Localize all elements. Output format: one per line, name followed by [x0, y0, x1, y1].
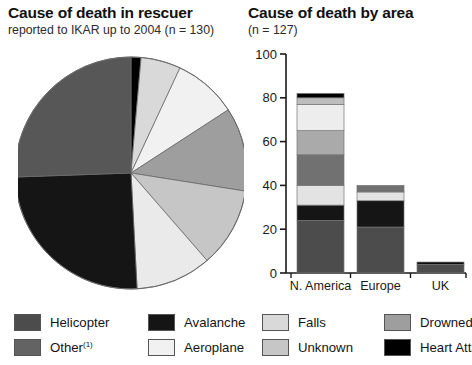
bar-segment-drowned: [297, 155, 344, 186]
bar-segment-other: [297, 98, 344, 105]
y-axis-tick-label: 0: [270, 266, 277, 281]
legend-swatch: [384, 339, 411, 356]
legend-swatch: [14, 314, 41, 331]
bar-chart-subtitle: (n = 127): [248, 23, 298, 37]
legend-label: Heart Attack: [420, 341, 472, 354]
bar-segment-falls: [357, 192, 404, 201]
x-axis-category-label: N. America: [290, 279, 352, 293]
legend-label: Avalanche: [184, 316, 245, 329]
legend-label: Helicopter: [50, 316, 109, 329]
legend-swatch: [262, 339, 289, 356]
y-axis-tick-label: 100: [255, 47, 277, 62]
legend-swatch: [262, 314, 289, 331]
bar-segment-heart-attack: [297, 93, 344, 97]
legend-item-aeroplane: Aeroplane: [148, 337, 244, 358]
bar-segment-helicopter: [417, 264, 464, 273]
bar-chart-category-labels: N. AmericaEuropeexcluding UKUK: [290, 279, 450, 296]
legend-swatch: [384, 314, 411, 331]
legend-swatch: [14, 339, 41, 356]
legend-footnote-marker: (1): [83, 340, 93, 349]
pie-slice-group: [18, 57, 244, 289]
bar-chart-svg: 020406080100 N. AmericaEuropeexcluding U…: [244, 46, 472, 296]
legend-item-other: Other(1): [14, 337, 93, 358]
pie-chart-subtitle: reported to IKAR up to 2004 (n = 130): [8, 23, 214, 37]
pie-chart-title: Cause of death in rescuer: [8, 4, 193, 22]
legend-label: Drowned: [420, 316, 472, 329]
bar-segment-unknown: [297, 131, 344, 155]
legend-swatch: [148, 339, 175, 356]
pie-chart-svg: [18, 52, 244, 292]
bar-segment-avalanche: [297, 205, 344, 220]
bar-segment-aeroplane: [297, 104, 344, 130]
legend-item-drowned: Drowned: [384, 312, 472, 333]
legend-item-helicopter: Helicopter: [14, 312, 109, 333]
bar-segment-heart-attack: [417, 262, 464, 264]
legend-item-heart-attack: Heart Attack: [384, 337, 472, 358]
legend-item-falls: Falls: [262, 312, 326, 333]
y-axis-tick-label: 40: [263, 178, 277, 193]
chart-legend: HelicopterOther(1)AvalancheAeroplaneFall…: [0, 306, 472, 365]
y-axis-tick-label: 20: [263, 222, 277, 237]
x-axis-category-label-line2: excluding UK: [343, 294, 418, 296]
bar-segment-drowned: [357, 185, 404, 192]
bar-segment-helicopter: [297, 220, 344, 273]
legend-label: Falls: [298, 316, 326, 329]
legend-item-avalanche: Avalanche: [148, 312, 245, 333]
legend-item-unknown: Unknown: [262, 337, 353, 358]
bar-chart: 020406080100 N. AmericaEuropeexcluding U…: [244, 46, 472, 296]
bar-segment-falls: [297, 185, 344, 205]
y-axis-tick-label: 80: [263, 90, 277, 105]
legend-swatch: [148, 314, 175, 331]
pie-slice-avalanche: [18, 173, 137, 289]
legend-label: Aeroplane: [184, 341, 244, 354]
y-axis-tick-label: 60: [263, 134, 277, 149]
legend-label: Unknown: [298, 341, 353, 354]
bar-chart-title: Cause of death by area: [248, 4, 413, 22]
bar-chart-stack-group: [297, 93, 464, 273]
legend-label: Other(1): [50, 341, 93, 355]
x-axis-category-label: Europe: [360, 279, 401, 293]
bar-segment-helicopter: [357, 227, 404, 273]
x-axis-category-label: UK: [432, 279, 450, 293]
pie-chart: [18, 52, 244, 292]
bar-segment-avalanche: [357, 201, 404, 227]
pie-slice-helicopter: [18, 57, 131, 177]
figure-root: Cause of death in rescuer reported to IK…: [0, 0, 472, 365]
